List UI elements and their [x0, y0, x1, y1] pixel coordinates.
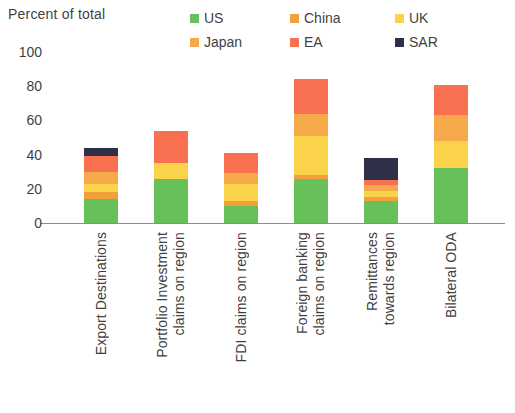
bar-segment-us [84, 199, 118, 223]
legend-label: China [304, 11, 341, 25]
stacked-bar[interactable] [154, 131, 188, 223]
legend-swatch-icon [290, 14, 299, 23]
category-label-line: Portfolio Investment [154, 232, 171, 358]
bar-segment-china [84, 192, 118, 199]
stacked-bar[interactable] [364, 158, 398, 223]
bar-segment-ea [294, 79, 328, 113]
category-label: Foreign bankingclaims on region [288, 228, 334, 413]
stacked-bar[interactable] [84, 148, 118, 223]
y-axis-tick-label: 80 [26, 78, 42, 94]
category-label-line: claims on region [171, 232, 188, 336]
legend-swatch-icon [395, 38, 404, 47]
bar-segment-us [294, 179, 328, 223]
category-label: Portfolio Investmentclaims on region [148, 228, 194, 413]
legend-item-uk[interactable]: UK [395, 11, 495, 25]
bar-segment-japan [224, 173, 258, 183]
legend-label: US [204, 11, 223, 25]
legend-swatch-icon [395, 14, 404, 23]
legend-item-japan[interactable]: Japan [190, 35, 290, 49]
bar-segment-ea [154, 131, 188, 163]
bar-segment-uk [364, 191, 398, 198]
y-axis-tick-label: 60 [26, 112, 42, 128]
bar-segment-uk [154, 163, 188, 178]
category-label-line: towards region [381, 232, 398, 325]
bar-segment-sar [364, 158, 398, 180]
legend-swatch-icon [190, 14, 199, 23]
stacked-bar-chart: Percent of total USChinaUKJapanEASAR 020… [0, 0, 515, 413]
y-axis-title: Percent of total [8, 6, 105, 22]
bar-slot [428, 52, 474, 223]
category-label-line: Foreign banking [294, 232, 311, 334]
bar-segment-sar [84, 148, 118, 157]
bar-segment-japan [434, 115, 468, 141]
category-label: FDI claims on region [218, 228, 264, 413]
y-axis-tick-label: 100 [19, 44, 42, 60]
legend-label: EA [304, 35, 323, 49]
bar-slot [148, 52, 194, 223]
category-label-line: Remittances [364, 232, 381, 311]
legend-item-ea[interactable]: EA [290, 35, 395, 49]
category-label-line: claims on region [311, 232, 328, 336]
bar-segment-uk [224, 184, 258, 201]
legend-swatch-icon [290, 38, 299, 47]
bar-slot [218, 52, 264, 223]
legend-label: Japan [204, 35, 242, 49]
legend-label: SAR [409, 35, 438, 49]
stacked-bar[interactable] [294, 79, 328, 223]
bar-segment-us [434, 168, 468, 223]
legend-swatch-icon [190, 38, 199, 47]
stacked-bar[interactable] [434, 85, 468, 224]
y-axis-tick-label: 0 [34, 215, 42, 231]
bar-segment-uk [84, 184, 118, 193]
category-label-line: Export Destinations [93, 232, 110, 355]
bar-segment-ea [434, 85, 468, 116]
bar-segment-us [364, 201, 398, 223]
bar-segment-uk [294, 136, 328, 175]
x-axis-baseline [40, 223, 505, 224]
legend-item-sar[interactable]: SAR [395, 35, 495, 49]
bar-segment-us [154, 179, 188, 223]
legend-label: UK [409, 11, 428, 25]
category-label: Export Destinations [78, 228, 124, 413]
bar-segment-japan [84, 172, 118, 184]
bar-group [50, 52, 505, 223]
bar-segment-uk [434, 141, 468, 168]
stacked-bar[interactable] [224, 153, 258, 223]
category-label: Bilateral ODA [428, 228, 474, 413]
legend-item-us[interactable]: US [190, 11, 290, 25]
x-axis-category-labels: Export DestinationsPortfolio Investmentc… [50, 228, 505, 413]
category-label: Remittancestowards region [358, 228, 404, 413]
bar-segment-japan [294, 114, 328, 136]
legend-item-china[interactable]: China [290, 11, 395, 25]
bar-slot [288, 52, 334, 223]
y-axis-tick-label: 20 [26, 181, 42, 197]
bar-segment-ea [84, 156, 118, 171]
category-label-line: FDI claims on region [233, 232, 250, 362]
plot-area: 020406080100 [50, 52, 505, 223]
y-axis-tick-label: 40 [26, 147, 42, 163]
bar-segment-ea [224, 153, 258, 174]
chart-legend: USChinaUKJapanEASAR [190, 6, 510, 54]
bar-slot [358, 52, 404, 223]
bar-segment-us [224, 206, 258, 223]
category-label-line: Bilateral ODA [443, 232, 460, 318]
bar-slot [78, 52, 124, 223]
